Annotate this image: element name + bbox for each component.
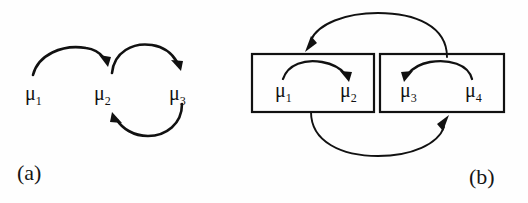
node-label-a-mu1: μ1	[25, 82, 42, 108]
panel-b: μ1 μ2 μ3 μ4 (b)	[252, 13, 504, 189]
node-label-b-mu1: μ1	[275, 79, 292, 105]
node-label-a-mu3: μ3	[169, 82, 186, 108]
panel-a-caption: (a)	[17, 160, 41, 185]
edge-a-mu2-to-mu3	[112, 44, 183, 73]
edge-b-right-to-left-top	[305, 13, 447, 57]
panel-a: μ1 μ2 μ3 (a)	[17, 44, 186, 185]
node-label-a-mu2: μ2	[94, 82, 111, 108]
arrowhead-icon	[171, 60, 183, 71]
arrowhead-icon	[437, 115, 449, 131]
arrowhead-icon	[110, 112, 122, 123]
edge-b-mu4-to-mu3	[401, 61, 472, 82]
group-box-right	[380, 54, 504, 112]
edge-a-mu1-to-mu2	[33, 47, 111, 75]
node-label-b-mu4: μ4	[465, 79, 482, 105]
arrowhead-icon	[99, 55, 111, 67]
edge-a-mu3-to-mu2	[110, 104, 182, 136]
node-label-b-mu3: μ3	[400, 79, 417, 105]
node-label-b-mu2: μ2	[340, 79, 357, 105]
panel-b-caption: (b)	[469, 164, 495, 189]
edge-b-left-to-right-bottom	[311, 112, 449, 156]
diagram-svg: μ1 μ2 μ3 (a)	[0, 0, 528, 203]
figure-canvas: μ1 μ2 μ3 (a)	[0, 0, 528, 203]
arrowhead-icon	[305, 36, 317, 52]
